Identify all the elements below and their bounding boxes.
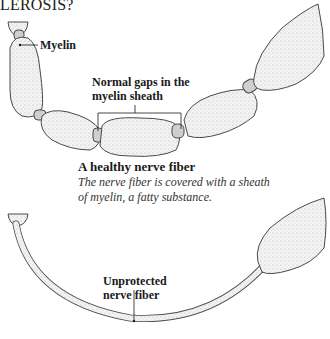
- myelin-segment-3: [100, 118, 180, 157]
- healthy-caption-heading: A healthy nerve fiber: [78, 159, 195, 175]
- remaining-myelin-segment: [257, 198, 326, 274]
- damaged-nerve-fiber: [8, 198, 326, 319]
- unprotected-axon: [16, 224, 264, 319]
- gaps-label-line2: myelin sheath: [92, 89, 163, 103]
- gaps-label-line1: Normal gaps in the: [92, 75, 190, 89]
- myelin-segment-1: [10, 37, 43, 117]
- myelin-label: Myelin: [40, 38, 76, 52]
- myelin-segment-2: [41, 111, 100, 150]
- node-of-ranvier: [172, 124, 184, 138]
- myelin-segment-4: [184, 90, 257, 138]
- page-title: LEROSIS?: [0, 0, 74, 14]
- healthy-caption-line1: The nerve fiber is covered with a sheath: [78, 175, 270, 190]
- healthy-caption-line2: of myelin, a fatty substance.: [78, 190, 212, 205]
- unprotected-label-line2: nerve fiber: [103, 288, 159, 302]
- myelin-segment-5: [254, 4, 324, 90]
- unprotected-label-line1: Unprotected: [103, 274, 167, 288]
